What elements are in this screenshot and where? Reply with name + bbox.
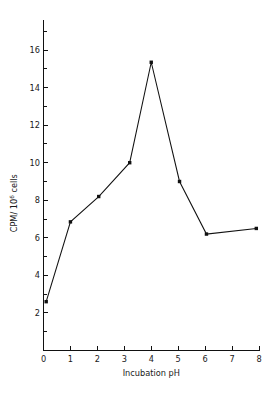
data-point-marker [150, 61, 153, 64]
data-point-marker [44, 300, 47, 303]
x-axis-title: Incubation pH [123, 368, 180, 378]
x-tick-label: 3 [122, 354, 127, 364]
y-tick-label: 8 [35, 195, 40, 205]
y-axis-title: CPM/ 106 cells [9, 174, 19, 232]
x-tick-label: 5 [176, 354, 181, 364]
x-tick-label: 1 [68, 354, 73, 364]
y-tick-label: 12 [30, 120, 40, 130]
data-series [44, 61, 258, 304]
line-chart: 246810121416012345678 Incubation pHCPM/ … [0, 0, 273, 394]
chart-figure: 246810121416012345678 Incubation pHCPM/ … [0, 0, 273, 394]
x-tick-label: 0 [41, 354, 46, 364]
x-tick-label: 4 [149, 354, 154, 364]
data-point-marker [97, 195, 100, 198]
data-point-marker [128, 161, 131, 164]
y-tick-label: 6 [35, 233, 40, 243]
x-tick-label: 6 [203, 354, 208, 364]
y-tick-label: 16 [30, 45, 40, 55]
x-tick-label: 2 [95, 354, 100, 364]
y-tick-label: 14 [30, 83, 40, 93]
axis-ticks [44, 31, 260, 350]
data-point-marker [178, 180, 181, 183]
y-tick-label: 2 [35, 308, 40, 318]
axes [44, 20, 260, 351]
data-point-marker [205, 232, 208, 235]
y-tick-label: 4 [35, 270, 40, 280]
y-tick-label: 10 [30, 158, 40, 168]
x-tick-label: 8 [256, 354, 261, 364]
data-point-marker [69, 220, 72, 223]
x-tick-label: 7 [229, 354, 234, 364]
series-line [46, 62, 256, 301]
axis-tick-labels: 246810121416012345678 [30, 45, 262, 364]
data-point-marker [255, 227, 258, 230]
